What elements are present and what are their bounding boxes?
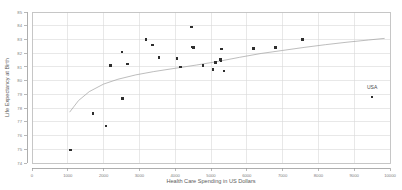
- y-axis-title: Life Expectancy at Birth: [4, 58, 10, 117]
- data-point-marker: [158, 56, 161, 59]
- point-annotations: USA: [367, 84, 378, 90]
- scatter-chart: 0100020003000400050006000700080009000100…: [0, 0, 402, 190]
- data-point-marker: [192, 46, 195, 49]
- y-tick-label: 83: [17, 37, 22, 42]
- x-tick-label: 8000: [314, 173, 324, 178]
- y-tick-label: 74: [17, 161, 22, 166]
- data-point-marker: [126, 63, 129, 66]
- data-point-label: USA: [367, 84, 378, 90]
- data-point-marker: [223, 70, 226, 73]
- data-point-marker: [92, 112, 95, 115]
- data-point-marker: [121, 97, 124, 100]
- y-tick-label: 79: [17, 92, 22, 97]
- y-tick-label: 85: [17, 10, 22, 15]
- data-point-marker: [202, 64, 205, 67]
- x-tick-label: 7000: [278, 173, 288, 178]
- data-point-marker: [151, 44, 154, 47]
- data-point-marker: [121, 51, 124, 54]
- x-tick-label: 1000: [63, 173, 73, 178]
- data-point-marker: [252, 47, 255, 50]
- data-point-marker: [69, 149, 72, 152]
- axis-ticks: [24, 12, 390, 171]
- data-point-marker: [301, 38, 304, 41]
- data-point-marker: [214, 61, 217, 64]
- data-point-marker: [109, 64, 112, 67]
- data-point-marker: [105, 125, 108, 128]
- data-point-marker: [371, 96, 374, 99]
- y-tick-label: 82: [17, 51, 22, 56]
- data-point-marker: [212, 68, 215, 71]
- y-tick-label: 84: [17, 23, 22, 28]
- x-tick-label: 2000: [99, 173, 109, 178]
- y-tick-label: 77: [17, 119, 22, 124]
- data-point-marker: [220, 59, 223, 62]
- axis-tick-labels: 0100020003000400050006000700080009000100…: [17, 10, 396, 178]
- y-tick-label: 81: [17, 65, 22, 70]
- data-point-marker: [145, 38, 148, 41]
- x-tick-label: 10000: [384, 173, 396, 178]
- data-point-marker: [179, 66, 182, 69]
- chart-canvas: 0100020003000400050006000700080009000100…: [0, 0, 402, 190]
- data-point-marker: [190, 26, 193, 29]
- y-tick-label: 78: [17, 106, 22, 111]
- x-tick-label: 3000: [135, 173, 145, 178]
- data-point-marker: [274, 46, 277, 49]
- x-tick-label: 9000: [350, 173, 360, 178]
- grid-lines: [32, 12, 390, 163]
- x-tick-label: 0: [31, 173, 34, 178]
- y-tick-label: 76: [17, 133, 22, 138]
- data-point-marker: [176, 57, 179, 60]
- y-tick-label: 75: [17, 147, 22, 152]
- y-tick-label: 80: [17, 78, 22, 83]
- data-point-marker: [220, 48, 223, 51]
- trend-line: [70, 38, 385, 112]
- x-axis-title: Health Care Spending in US Dollars: [166, 178, 255, 184]
